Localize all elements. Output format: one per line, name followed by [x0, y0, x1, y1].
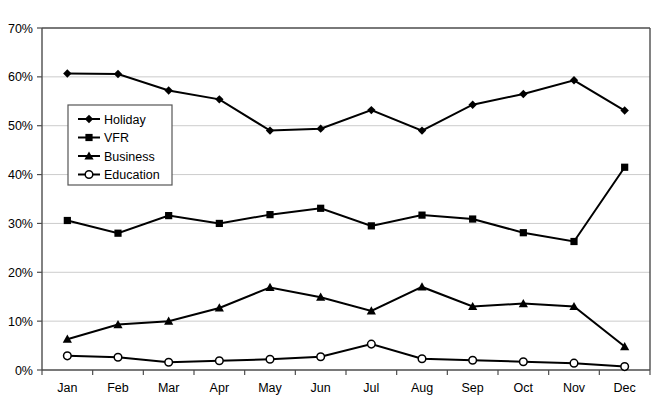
data-point-vfr-jun: [317, 205, 324, 212]
data-point-holiday-jul: [367, 106, 375, 114]
data-point-education-apr: [216, 357, 224, 365]
x-axis-tick-label-may: May: [258, 381, 282, 395]
legend-label: VFR: [104, 131, 129, 145]
legend-marker-circle-open: [85, 171, 93, 179]
data-point-vfr-jul: [368, 222, 375, 229]
data-point-vfr-sep: [469, 215, 476, 222]
legend-label: Holiday: [104, 113, 146, 127]
chart-legend: HolidayVFRBusinessEducation: [68, 105, 172, 185]
x-axis-tick-label-nov: Nov: [563, 381, 586, 395]
series-education: [64, 340, 629, 370]
data-point-education-aug: [418, 355, 426, 363]
y-axis-tick-label: 0%: [15, 364, 33, 378]
data-point-education-nov: [570, 359, 578, 367]
x-axis-tick-label-apr: Apr: [210, 381, 229, 395]
data-point-education-may: [266, 355, 274, 363]
series-line-business: [67, 287, 624, 347]
data-point-vfr-jan: [64, 217, 71, 224]
series-business: [63, 282, 630, 350]
data-point-business-aug: [417, 282, 426, 290]
x-axis-tick-label-dec: Dec: [614, 381, 636, 395]
data-point-education-jun: [317, 353, 325, 361]
y-axis-tick-label: 60%: [8, 70, 33, 84]
data-point-education-mar: [165, 358, 173, 366]
data-point-vfr-nov: [570, 238, 577, 245]
data-point-holiday-sep: [468, 101, 476, 109]
legend-label: Education: [104, 168, 160, 182]
data-point-education-oct: [520, 358, 528, 366]
data-point-education-jul: [368, 340, 376, 348]
data-point-vfr-aug: [418, 212, 425, 219]
data-point-education-jan: [64, 352, 72, 360]
y-axis-tick-label: 30%: [8, 217, 33, 231]
y-axis-tick-label: 70%: [8, 22, 33, 36]
data-point-education-sep: [469, 356, 477, 364]
data-point-holiday-mar: [164, 86, 172, 94]
y-axis-labels: 0%10%20%30%40%50%60%70%: [8, 22, 33, 378]
data-point-education-feb: [114, 353, 122, 361]
x-tick-group: [42, 370, 650, 375]
data-point-holiday-oct: [519, 90, 527, 98]
y-tick-group: [37, 28, 42, 370]
data-point-vfr-oct: [520, 229, 527, 236]
data-point-vfr-dec: [621, 164, 628, 171]
x-axis-tick-label-jan: Jan: [57, 381, 77, 395]
data-point-holiday-dec: [620, 106, 628, 114]
data-point-education-dec: [621, 363, 629, 371]
x-axis-tick-label-oct: Oct: [514, 381, 534, 395]
data-point-vfr-mar: [165, 212, 172, 219]
y-axis-tick-label: 50%: [8, 119, 33, 133]
line-chart-panel: 0%10%20%30%40%50%60%70% JanFebMarAprMayJ…: [0, 0, 664, 401]
y-axis-tick-label: 40%: [8, 168, 33, 182]
data-point-vfr-may: [266, 211, 273, 218]
data-point-vfr-feb: [114, 230, 121, 237]
legend-marker-square: [85, 134, 92, 141]
x-axis-tick-label-aug: Aug: [411, 381, 433, 395]
chart-canvas: 0%10%20%30%40%50%60%70% JanFebMarAprMayJ…: [0, 0, 664, 401]
y-axis-tick-label: 10%: [8, 315, 33, 329]
y-axis-tick-label: 20%: [8, 266, 33, 280]
series-line-education: [67, 344, 624, 366]
x-axis-tick-label-jun: Jun: [311, 381, 331, 395]
legend-label: Business: [104, 150, 155, 164]
data-point-vfr-apr: [216, 220, 223, 227]
x-axis-tick-label-feb: Feb: [107, 381, 129, 395]
x-axis-tick-label-jul: Jul: [363, 381, 379, 395]
x-axis-tick-label-mar: Mar: [158, 381, 180, 395]
x-axis-labels: JanFebMarAprMayJunJulAugSepOctNovDec: [57, 381, 636, 395]
data-point-business-may: [265, 283, 274, 291]
data-point-holiday-aug: [418, 126, 426, 134]
x-axis-tick-label-sep: Sep: [462, 381, 484, 395]
